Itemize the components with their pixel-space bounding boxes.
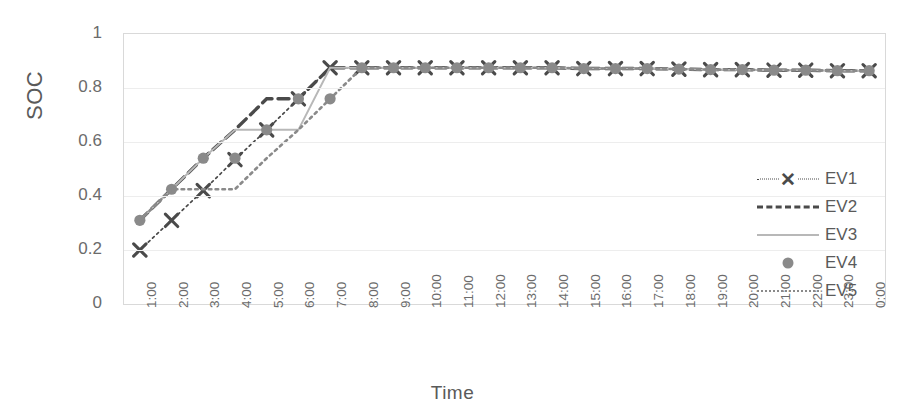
x-tick-label: 5:00 (271, 282, 286, 308)
x-tick-label: 11:00 (461, 275, 476, 308)
x-tick-label: 13:00 (524, 274, 539, 308)
y-axis-tick-labels: 10.80.60.40.20 (50, 0, 102, 416)
y-tick-label: 1 (56, 23, 102, 43)
legend-item-ev2[interactable]: EV2 (757, 194, 889, 220)
x-tick-label: 17:00 (651, 274, 666, 308)
legend-circle-marker-icon (783, 258, 794, 269)
legend-key-dotted-x-marker: ✕ (757, 168, 819, 190)
legend-line-sample (757, 206, 819, 209)
legend-line-sample (757, 290, 819, 292)
y-tick-label: 0.2 (56, 239, 102, 259)
legend-key-solid-line (757, 224, 819, 246)
gridline (124, 88, 885, 89)
data-point-marker (165, 214, 177, 226)
y-tick-label: 0.8 (56, 77, 102, 97)
legend-label: EV5 (819, 281, 857, 301)
x-tick-label: 14:00 (556, 274, 571, 308)
legend-key-circle-marker (757, 252, 819, 274)
chart-legend: ✕EV1EV2EV3EV4EV5 (757, 166, 889, 304)
x-tick-label: 9:00 (398, 282, 413, 308)
x-tick-label: 18:00 (683, 274, 698, 308)
y-tick-label: 0.6 (56, 131, 102, 151)
data-point-marker (198, 153, 209, 164)
x-tick-label: 12:00 (493, 274, 508, 308)
gridline (124, 142, 885, 143)
legend-item-ev4[interactable]: EV4 (757, 250, 889, 276)
x-axis-tick-labels: 1:002:003:004:005:006:007:008:009:0010:0… (123, 306, 886, 376)
soc-time-chart: SOC 10.80.60.40.20 1:002:003:004:005:006… (0, 0, 905, 416)
x-tick-label: 15:00 (588, 274, 603, 308)
data-point-marker (293, 93, 304, 104)
y-axis-title: SOC (22, 71, 48, 120)
legend-label: EV3 (819, 225, 857, 245)
legend-label: EV2 (819, 197, 857, 217)
y-tick-label: 0.4 (56, 185, 102, 205)
legend-item-ev1[interactable]: ✕EV1 (757, 166, 889, 192)
data-point-marker (261, 124, 272, 135)
legend-line-sample (757, 234, 819, 236)
x-tick-label: 6:00 (302, 282, 317, 308)
legend-item-ev3[interactable]: EV3 (757, 222, 889, 248)
legend-label: EV1 (819, 169, 857, 189)
data-point-marker (197, 184, 209, 196)
legend-label: EV4 (819, 253, 857, 273)
x-axis-title: Time (0, 382, 905, 404)
y-tick-label: 0 (56, 293, 102, 313)
x-tick-label: 3:00 (207, 282, 222, 308)
legend-item-ev5[interactable]: EV5 (757, 278, 889, 304)
legend-x-marker-icon: ✕ (779, 170, 797, 189)
x-tick-label: 19:00 (715, 274, 730, 308)
x-tick-label: 7:00 (334, 282, 349, 308)
x-tick-label: 4:00 (239, 282, 254, 308)
legend-key-dashed-line (757, 196, 819, 218)
x-tick-label: 8:00 (366, 282, 381, 308)
x-tick-label: 2:00 (176, 282, 191, 308)
data-point-marker (229, 153, 240, 164)
x-tick-label: 1:00 (144, 282, 159, 308)
x-tick-label: 16:00 (619, 274, 634, 308)
legend-key-dotted-line (757, 280, 819, 302)
x-tick-label: 10:00 (429, 274, 444, 308)
